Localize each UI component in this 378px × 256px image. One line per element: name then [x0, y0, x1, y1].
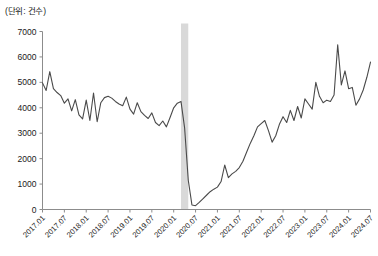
y-tick-label: 1000 — [18, 179, 37, 189]
data-series-line — [43, 45, 371, 206]
x-tick-label: 2017.07 — [43, 214, 69, 240]
chart-container: (단위: 건수) 01000200030004000500060007000 2… — [0, 0, 378, 256]
y-tick-label: 2000 — [18, 154, 37, 164]
y-axis-tick-labels: 01000200030004000500060007000 — [18, 27, 37, 215]
x-tick-label: 2020.07 — [174, 214, 200, 240]
x-tick-label: 2023.07 — [305, 214, 331, 240]
x-tick-label: 2019.01 — [109, 214, 135, 240]
axis-layer — [40, 32, 371, 213]
y-tick-label: 6000 — [18, 52, 37, 62]
x-tick-label: 2018.07 — [87, 214, 113, 240]
y-tick-label: 4000 — [18, 103, 37, 113]
covid-shock-band — [181, 24, 188, 210]
x-tick-label: 2022.07 — [262, 214, 288, 240]
x-tick-label: 2024.01 — [327, 214, 353, 240]
x-tick-label: 2022.01 — [240, 214, 266, 240]
x-tick-label: 2017.01 — [21, 214, 47, 240]
x-tick-label: 2020.01 — [152, 214, 178, 240]
x-axis-tick-labels: 2017.012017.072018.012018.072019.012019.… — [21, 214, 375, 240]
x-tick-label: 2019.07 — [130, 214, 156, 240]
x-tick-label: 2021.01 — [196, 214, 222, 240]
y-tick-label: 7000 — [18, 27, 37, 37]
line-chart-plot: 01000200030004000500060007000 2017.01201… — [0, 0, 378, 256]
x-tick-label: 2023.01 — [284, 214, 310, 240]
x-tick-label: 2021.07 — [218, 214, 244, 240]
data-line-layer — [43, 45, 371, 206]
x-tick-label: 2024.07 — [349, 214, 375, 240]
y-tick-label: 5000 — [18, 77, 37, 87]
x-tick-label: 2018.01 — [65, 214, 91, 240]
y-tick-label: 0 — [32, 205, 37, 215]
y-tick-label: 3000 — [18, 128, 37, 138]
highlight-band-layer — [181, 24, 188, 210]
